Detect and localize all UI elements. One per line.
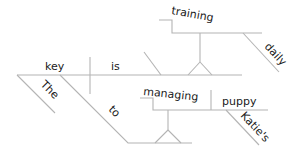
word-katies: Katie's [238, 109, 273, 145]
word-is: is [111, 60, 120, 73]
word-to: to [106, 103, 123, 120]
pedestal-lower-leg-right [168, 130, 181, 143]
word-puppy: puppy [222, 95, 257, 108]
predicate-slant [144, 52, 161, 75]
pedestal-upper-leg-right [200, 62, 212, 75]
pedestal-upper-leg-left [188, 62, 200, 75]
sentence-diagram: key is training daily The to managing pu… [0, 0, 297, 156]
word-the: The [37, 77, 62, 102]
word-daily: daily [262, 40, 290, 68]
pedestal-lower-leg-left [155, 130, 168, 143]
word-training: training [170, 4, 214, 24]
word-key: key [45, 60, 65, 73]
preposition-line [60, 75, 192, 143]
word-managing: managing [143, 85, 199, 104]
